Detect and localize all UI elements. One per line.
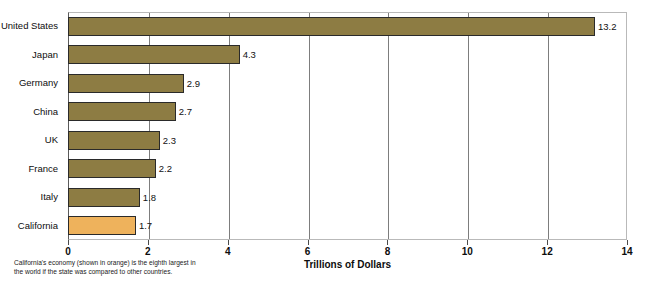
category-label-uk: UK — [45, 126, 58, 155]
bar-value-label: 2.3 — [160, 131, 176, 150]
category-label-france: France — [28, 155, 58, 184]
bar-row: 4.3 — [68, 41, 627, 70]
bar-france — [68, 159, 156, 178]
bar-japan — [68, 45, 240, 64]
x-tick-label-12: 12 — [542, 246, 553, 257]
x-tick-label-2: 2 — [145, 246, 151, 257]
bar-row: 2.9 — [68, 69, 627, 98]
x-tick-10 — [467, 240, 468, 245]
chart-footnote: California's economy (shown in orange) i… — [14, 258, 199, 276]
category-label-italy: Italy — [41, 183, 58, 212]
bar-uk — [68, 131, 160, 150]
category-label-china: China — [33, 98, 58, 127]
x-tick-4 — [228, 240, 229, 245]
x-tick-0 — [68, 240, 69, 245]
x-tick-6 — [308, 240, 309, 245]
x-tick-label-4: 4 — [225, 246, 231, 257]
category-label-united-states: United States — [1, 12, 58, 41]
category-label-japan: Japan — [32, 41, 58, 70]
category-axis-labels: United StatesJapanGermanyChinaUKFranceIt… — [0, 12, 64, 240]
bar-germany — [68, 74, 184, 93]
bar-california — [68, 216, 136, 235]
bar-china — [68, 102, 176, 121]
bar-row: 1.8 — [68, 183, 627, 212]
x-tick-2 — [148, 240, 149, 245]
bars-layer: 13.24.32.92.72.32.21.81.7 — [68, 12, 627, 240]
bar-row: 1.7 — [68, 212, 627, 241]
bar-value-label: 1.8 — [140, 188, 156, 207]
x-tick-12 — [547, 240, 548, 245]
bar-chart: 13.24.32.92.72.32.21.81.7 United StatesJ… — [0, 0, 646, 281]
bar-value-label: 2.2 — [156, 159, 172, 178]
x-tick-14 — [627, 240, 628, 245]
x-tick-label-0: 0 — [65, 246, 71, 257]
bar-value-label: 2.7 — [176, 102, 192, 121]
category-label-california: California — [18, 212, 58, 241]
bar-row: 2.2 — [68, 155, 627, 184]
x-tick-label-14: 14 — [621, 246, 632, 257]
bar-united-states — [68, 17, 595, 36]
bar-value-label: 1.7 — [136, 216, 152, 235]
category-label-germany: Germany — [19, 69, 58, 98]
bar-italy — [68, 188, 140, 207]
bar-row: 2.7 — [68, 98, 627, 127]
x-tick-label-6: 6 — [305, 246, 311, 257]
bar-row: 2.3 — [68, 126, 627, 155]
bar-row: 13.2 — [68, 12, 627, 41]
x-tick-label-8: 8 — [385, 246, 391, 257]
bar-value-label: 4.3 — [240, 45, 256, 64]
bar-value-label: 13.2 — [595, 17, 617, 36]
x-tick-8 — [387, 240, 388, 245]
bar-value-label: 2.9 — [184, 74, 200, 93]
x-tick-label-10: 10 — [462, 246, 473, 257]
